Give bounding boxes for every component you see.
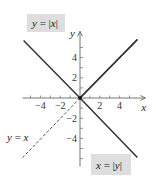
y-tick-label: 2	[72, 72, 77, 83]
series-line-x-y	[80, 39, 137, 157]
y-tick-label: −2	[66, 113, 77, 124]
label-x-abs-y: x = |y|	[91, 154, 131, 175]
graph: xy −4−22442−2−4 y = |x|x = |y|y = x	[0, 0, 156, 187]
x-tick-label: 4	[117, 100, 122, 111]
equation-part: = |	[37, 17, 51, 29]
series-line-y-x	[23, 98, 80, 158]
x-tick-label: 2	[97, 100, 102, 111]
equation-part: = |	[101, 159, 115, 171]
series-line-y-x	[24, 39, 138, 98]
origin-point	[78, 96, 82, 100]
y-tick-label: 4	[72, 52, 77, 63]
equation-part: x	[23, 131, 29, 143]
x-tick-label: −4	[35, 100, 46, 111]
equation-part: |	[56, 17, 58, 29]
x-axis-label: x	[140, 101, 146, 113]
label-y-abs-x: y = |x|	[27, 14, 65, 32]
equation-part: =	[12, 131, 24, 143]
x-tick-label: −2	[55, 100, 66, 111]
annotations-layer: y = |x|x = |y|y = x	[6, 14, 131, 175]
label-y-abs-x-text: y = |x|	[31, 17, 58, 29]
y-axis-label: y	[69, 27, 75, 39]
y-tick-label: −4	[66, 133, 77, 144]
label-y-eq-x-text: y = x	[6, 131, 29, 143]
label-y-eq-x: y = x	[6, 131, 29, 143]
label-x-abs-y-text: x = |y|	[95, 159, 122, 171]
equation-part: |	[120, 159, 122, 171]
